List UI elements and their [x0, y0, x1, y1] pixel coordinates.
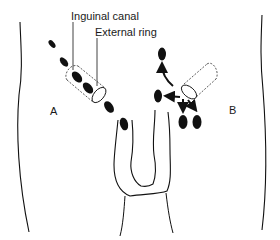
side-b-label: B: [229, 104, 236, 116]
ectopic-positions-b: [154, 48, 202, 130]
side-a-label: A: [50, 105, 58, 117]
descent-path-a: [47, 39, 129, 131]
right-thigh-line: [166, 193, 173, 233]
testis-position: [179, 115, 188, 129]
arrow-left-icon: [167, 96, 180, 97]
testis-position: [102, 99, 116, 114]
right-body-outline: [261, 15, 266, 230]
inguinal-canal-label: Inguinal canal: [71, 10, 139, 22]
arrow-down-right-icon: [188, 100, 195, 109]
left-thigh-line: [120, 196, 125, 236]
testis-position: [58, 56, 70, 68]
testis-position: [118, 117, 129, 132]
external-ring-label: External ring: [95, 26, 157, 38]
testis-position: [70, 69, 84, 84]
testis-position: [193, 115, 202, 129]
inguinal-canal-b: [179, 63, 217, 101]
testis-position: [154, 90, 162, 103]
testis-position: [158, 48, 166, 61]
testis-descent-diagram: Inguinal canal External ring A B: [0, 0, 280, 240]
testis-position: [81, 80, 95, 95]
arrow-up-icon: [162, 65, 173, 86]
left-body-outline: [18, 22, 29, 232]
testis-position: [47, 39, 57, 49]
penis-outline: [131, 110, 156, 186]
